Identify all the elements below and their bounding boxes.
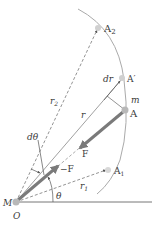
point-A-prime (119, 75, 125, 81)
point-A2 (95, 25, 101, 31)
label-A: A (129, 108, 138, 119)
d-theta-tick (31, 169, 40, 173)
label-neg-F: −F (60, 164, 74, 174)
point-A1 (105, 167, 111, 173)
label-O: O (13, 211, 21, 221)
label-r2: r2 (50, 96, 58, 107)
label-dr: dr (103, 74, 114, 84)
label-A-prime: A′ (126, 74, 136, 84)
label-A2: A2 (103, 23, 116, 36)
point-A-mass (122, 107, 129, 114)
label-m: m (131, 95, 140, 105)
label-r: r (81, 110, 86, 120)
label-theta: θ (56, 191, 62, 201)
force-neg-F-arrow (18, 166, 58, 200)
label-d-theta: dθ (27, 132, 39, 142)
label-A1: A1 (113, 166, 124, 177)
label-r1: r1 (80, 181, 88, 192)
central-force-diagram: A2 dr A′ m A r2 r F dθ −F A1 r1 θ M O (0, 0, 161, 226)
label-F: F (82, 149, 88, 159)
point-O (13, 199, 20, 206)
label-M: M (2, 198, 13, 208)
force-F-arrow (80, 112, 123, 148)
